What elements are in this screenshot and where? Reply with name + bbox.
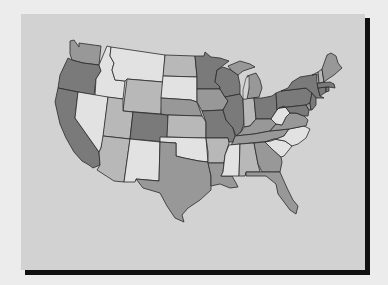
state-mt	[110, 47, 165, 82]
state-ri	[326, 87, 329, 92]
state-ks	[167, 115, 206, 138]
state-nm	[124, 139, 160, 182]
state-nd	[163, 55, 197, 77]
us-map	[0, 0, 388, 285]
state-me	[322, 53, 342, 82]
state-fl	[246, 172, 298, 214]
state-wy	[123, 79, 163, 114]
